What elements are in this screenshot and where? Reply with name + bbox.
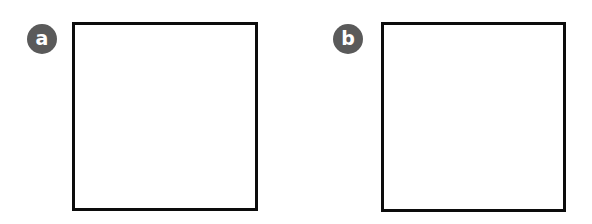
panel-content-b [384, 25, 563, 209]
panel-label-badge-a: a [27, 24, 57, 54]
panel-label-text-a: a [36, 29, 49, 48]
figure-root: a b [0, 0, 592, 224]
panel-content-a [75, 25, 255, 208]
panel-label-text-b: b [341, 29, 355, 48]
panel-label-badge-b: b [333, 24, 363, 54]
panel-frame-b [381, 22, 566, 212]
panel-frame-a [72, 22, 258, 211]
